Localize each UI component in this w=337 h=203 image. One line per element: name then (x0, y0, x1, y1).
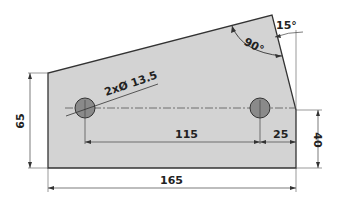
dim-65-arrow-top (28, 73, 32, 79)
dim-40-label: 40 (311, 132, 324, 148)
dim-165-arrow-right (290, 186, 296, 190)
angle-15-label: 15° (276, 19, 297, 32)
dim-165-arrow-left (48, 186, 54, 190)
dim-40-arrow-bottom (316, 162, 320, 168)
dim-115-label: 115 (175, 128, 198, 141)
dim-165-label: 165 (160, 174, 183, 187)
dim-65-label: 65 (14, 113, 27, 128)
dim-40-arrow-top (316, 110, 320, 116)
dim-65-arrow-bottom (28, 162, 32, 168)
plate-outline (48, 15, 296, 168)
drawing-canvas: 2xØ 13.5 115 25 65 165 40 15° 90° (0, 0, 337, 203)
dim-25-label: 25 (273, 128, 288, 141)
